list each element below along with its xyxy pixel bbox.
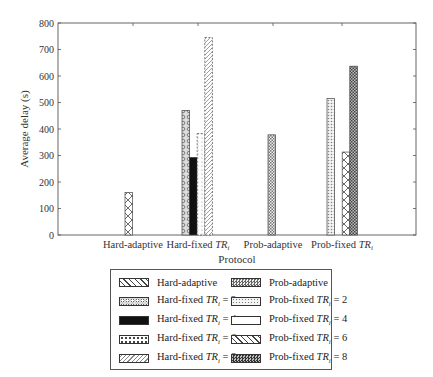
legend-swatch [231, 297, 261, 306]
legend-label: Prob-adaptive [269, 277, 328, 288]
y-tick-label: 0 [49, 230, 54, 241]
bar [125, 193, 133, 235]
legend-swatch [119, 316, 149, 325]
legend-swatch [119, 297, 149, 306]
bar [342, 152, 350, 235]
legend-swatch [119, 354, 149, 363]
legend-item: Hard-fixed TRi = 6 [119, 331, 236, 347]
legend-item: Prob-fixed TRi = 4 [231, 312, 347, 328]
legend-item: Prob-fixed TRi = 8 [231, 350, 347, 366]
bar [182, 110, 190, 235]
legend-swatch [231, 278, 261, 287]
legend-item: Hard-fixed TRi = 4 [119, 312, 236, 328]
bar [205, 38, 213, 235]
y-tick-label: 500 [39, 97, 54, 108]
x-tick-label: Hard-fixed TRi [167, 239, 230, 252]
legend-swatch [231, 354, 261, 363]
legend-label: Prob-fixed TRi = 6 [269, 332, 347, 346]
y-tick-label: 100 [39, 203, 54, 214]
bar [350, 66, 358, 235]
legend-swatch [119, 278, 149, 287]
legend-label: Prob-fixed TRi = 4 [269, 313, 347, 327]
legend-label: Prob-fixed TRi = 2 [269, 294, 347, 308]
y-tick-label: 600 [39, 71, 54, 82]
x-tick-label: Prob-adaptive [244, 239, 303, 250]
legend-label: Hard-fixed TRi = 8 [157, 351, 236, 365]
x-tick-label: Prob-fixed TRi [311, 239, 373, 252]
legend-label: Hard-fixed TRi = 2 [157, 294, 236, 308]
legend-item: Hard-fixed TRi = 8 [119, 350, 236, 366]
legend-label: Hard-fixed TRi = 6 [157, 332, 236, 346]
y-tick-label: 700 [39, 44, 54, 55]
bar [268, 135, 276, 235]
legend-item: Prob-fixed TRi = 6 [231, 331, 347, 347]
bar [190, 157, 198, 235]
legend-swatch [119, 335, 149, 344]
bar [197, 134, 205, 235]
y-tick-label: 800 [39, 18, 54, 29]
y-tick-label: 300 [39, 150, 54, 161]
legend-item: Prob-fixed TRi = 2 [231, 293, 347, 309]
legend-item: Prob-adaptive [231, 274, 328, 290]
y-tick-label: 200 [39, 177, 54, 188]
y-tick-label: 400 [39, 124, 54, 135]
bar [327, 99, 335, 235]
x-tick-label: Hard-adaptive [103, 239, 163, 250]
y-axis-label: Average delay (s) [18, 90, 31, 168]
legend: Hard-adaptiveProb-adaptiveHard-fixed TRi… [110, 269, 332, 370]
legend-label: Prob-fixed TRi = 8 [269, 351, 347, 365]
legend-label: Hard-adaptive [157, 277, 217, 288]
legend-label: Hard-fixed TRi = 4 [157, 313, 236, 327]
plot-area: 0100200300400500600700800Hard-adaptiveHa… [39, 18, 416, 253]
legend-swatch [231, 335, 261, 344]
x-axis-label: Protocol [218, 253, 255, 265]
legend-item: Hard-fixed TRi = 2 [119, 293, 236, 309]
legend-item: Hard-adaptive [119, 274, 217, 290]
plot-frame [58, 23, 416, 235]
legend-swatch [231, 316, 261, 325]
